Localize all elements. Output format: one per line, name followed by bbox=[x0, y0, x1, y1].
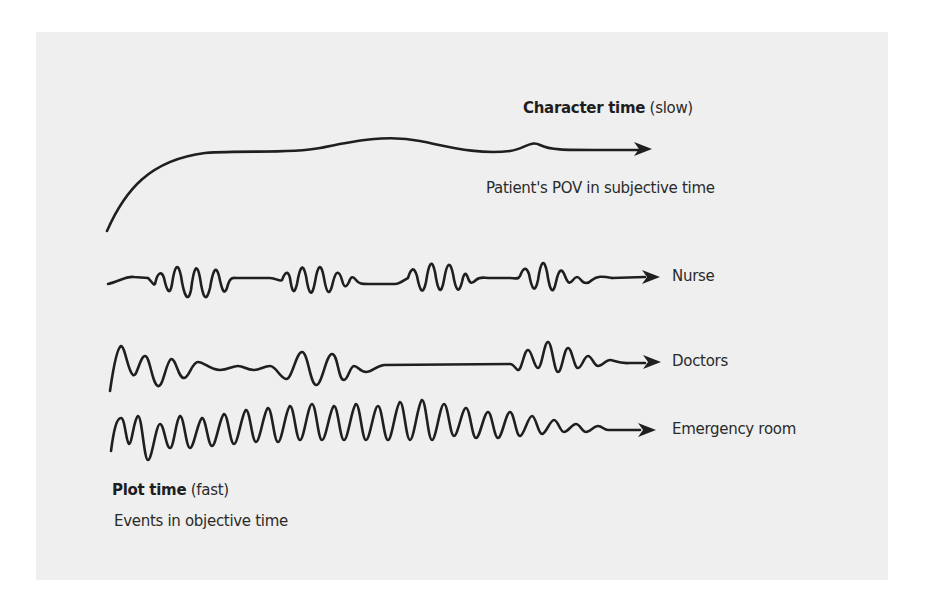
plot-time-title-bold: Plot time bbox=[112, 481, 186, 499]
character-time-title: Character time (slow) bbox=[523, 99, 693, 117]
track-label-emergency-room: Emergency room bbox=[672, 420, 796, 438]
emergency-room-waveform bbox=[111, 400, 656, 460]
plot-time-title-paren: (fast) bbox=[191, 481, 229, 499]
character-time-title-bold: Character time bbox=[523, 99, 645, 117]
character-time-subtitle: Patient's POV in subjective time bbox=[486, 179, 715, 197]
doctors-waveform bbox=[110, 342, 661, 391]
character-time-title-paren: (slow) bbox=[650, 99, 693, 117]
plot-time-title: Plot time (fast) bbox=[112, 481, 229, 499]
track-label-nurse: Nurse bbox=[672, 267, 714, 285]
track-label-doctors: Doctors bbox=[672, 352, 728, 370]
nurse-waveform bbox=[108, 263, 660, 297]
plot-time-subtitle: Events in objective time bbox=[114, 512, 288, 530]
